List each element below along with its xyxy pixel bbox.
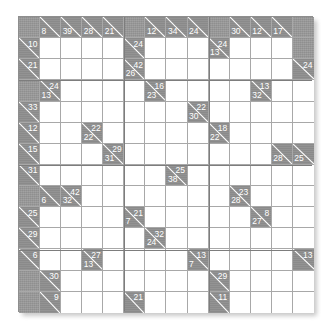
grid-cell-open[interactable] (272, 80, 293, 101)
grid-cell-open[interactable] (272, 292, 293, 313)
grid-cell-open[interactable] (82, 292, 103, 313)
grid-cell-open[interactable] (251, 165, 272, 186)
grid-cell-open[interactable] (145, 249, 166, 270)
grid-cell-open[interactable] (61, 38, 82, 59)
grid-cell-open[interactable] (103, 59, 124, 80)
grid-cell-open[interactable] (145, 165, 166, 186)
grid-cell-open[interactable] (40, 102, 61, 123)
grid-cell-open[interactable] (230, 271, 251, 292)
grid-cell-open[interactable] (166, 38, 187, 59)
grid-cell-open[interactable] (124, 80, 145, 101)
grid-cell-open[interactable] (166, 80, 187, 101)
grid-cell-open[interactable] (209, 228, 230, 249)
grid-cell-open[interactable] (145, 59, 166, 80)
grid-cell-open[interactable] (124, 186, 145, 207)
kakuro-grid[interactable]: 8392821123424301217102424132142262424131… (18, 16, 313, 312)
grid-cell-open[interactable] (272, 228, 293, 249)
grid-cell-open[interactable] (166, 228, 187, 249)
grid-cell-open[interactable] (61, 102, 82, 123)
grid-cell-open[interactable] (40, 59, 61, 80)
grid-cell-open[interactable] (61, 228, 82, 249)
grid-cell-open[interactable] (188, 123, 209, 144)
grid-cell-open[interactable] (145, 207, 166, 228)
grid-cell-open[interactable] (188, 271, 209, 292)
grid-cell-open[interactable] (209, 207, 230, 228)
grid-cell-open[interactable] (188, 292, 209, 313)
grid-cell-open[interactable] (166, 207, 187, 228)
grid-cell-open[interactable] (40, 144, 61, 165)
grid-cell-open[interactable] (82, 207, 103, 228)
grid-cell-open[interactable] (166, 292, 187, 313)
grid-cell-open[interactable] (209, 165, 230, 186)
grid-cell-open[interactable] (209, 144, 230, 165)
grid-cell-open[interactable] (251, 123, 272, 144)
grid-cell-open[interactable] (209, 59, 230, 80)
grid-cell-open[interactable] (40, 123, 61, 144)
grid-cell-open[interactable] (251, 59, 272, 80)
grid-cell-open[interactable] (82, 144, 103, 165)
grid-cell-open[interactable] (272, 186, 293, 207)
grid-cell-open[interactable] (145, 292, 166, 313)
grid-cell-open[interactable] (251, 102, 272, 123)
grid-cell-open[interactable] (82, 102, 103, 123)
grid-cell-open[interactable] (272, 102, 293, 123)
grid-cell-open[interactable] (145, 186, 166, 207)
grid-cell-open[interactable] (124, 123, 145, 144)
grid-cell-open[interactable] (61, 249, 82, 270)
grid-cell-open[interactable] (272, 59, 293, 80)
grid-cell-open[interactable] (103, 271, 124, 292)
grid-cell-open[interactable] (82, 271, 103, 292)
grid-cell-open[interactable] (230, 249, 251, 270)
grid-cell-open[interactable] (166, 249, 187, 270)
grid-cell-open[interactable] (61, 207, 82, 228)
grid-cell-open[interactable] (272, 271, 293, 292)
grid-cell-open[interactable] (145, 271, 166, 292)
grid-cell-open[interactable] (188, 144, 209, 165)
grid-cell-open[interactable] (103, 292, 124, 313)
grid-cell-open[interactable] (230, 80, 251, 101)
grid-cell-open[interactable] (82, 80, 103, 101)
grid-cell-open[interactable] (103, 123, 124, 144)
grid-cell-open[interactable] (230, 102, 251, 123)
grid-cell-open[interactable] (40, 207, 61, 228)
grid-cell-open[interactable] (103, 38, 124, 59)
grid-cell-open[interactable] (82, 165, 103, 186)
grid-cell-open[interactable] (61, 165, 82, 186)
grid-cell-open[interactable] (166, 271, 187, 292)
grid-cell-open[interactable] (40, 165, 61, 186)
grid-cell-open[interactable] (293, 228, 314, 249)
grid-cell-open[interactable] (166, 186, 187, 207)
grid-cell-open[interactable] (209, 102, 230, 123)
grid-cell-open[interactable] (293, 165, 314, 186)
grid-cell-open[interactable] (293, 207, 314, 228)
grid-cell-open[interactable] (82, 38, 103, 59)
grid-cell-open[interactable] (188, 186, 209, 207)
grid-cell-open[interactable] (209, 186, 230, 207)
grid-cell-open[interactable] (61, 123, 82, 144)
grid-cell-open[interactable] (145, 38, 166, 59)
grid-cell-open[interactable] (272, 207, 293, 228)
grid-cell-open[interactable] (230, 292, 251, 313)
grid-cell-open[interactable] (251, 249, 272, 270)
grid-cell-open[interactable] (166, 102, 187, 123)
grid-cell-open[interactable] (230, 165, 251, 186)
grid-cell-open[interactable] (272, 123, 293, 144)
grid-cell-open[interactable] (166, 144, 187, 165)
grid-cell-open[interactable] (272, 38, 293, 59)
grid-cell-open[interactable] (209, 249, 230, 270)
grid-cell-open[interactable] (272, 165, 293, 186)
grid-cell-open[interactable] (188, 59, 209, 80)
grid-cell-open[interactable] (272, 249, 293, 270)
grid-cell-open[interactable] (40, 228, 61, 249)
grid-cell-open[interactable] (188, 38, 209, 59)
grid-cell-open[interactable] (188, 228, 209, 249)
grid-cell-open[interactable] (293, 186, 314, 207)
grid-cell-open[interactable] (103, 207, 124, 228)
grid-cell-open[interactable] (166, 123, 187, 144)
grid-cell-open[interactable] (103, 80, 124, 101)
grid-cell-open[interactable] (82, 59, 103, 80)
grid-cell-open[interactable] (230, 228, 251, 249)
grid-cell-open[interactable] (251, 271, 272, 292)
grid-cell-open[interactable] (251, 38, 272, 59)
grid-cell-open[interactable] (82, 186, 103, 207)
